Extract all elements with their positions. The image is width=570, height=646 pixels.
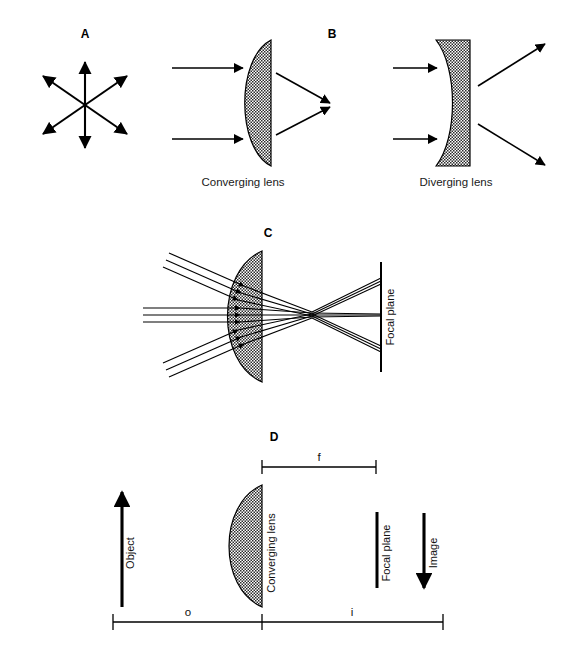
panel-a-letter: A: [81, 27, 90, 41]
panel-d-focal-plane-label: Focal plane: [380, 525, 392, 582]
panel-d-letter: D: [270, 430, 279, 444]
panel-b-letter: B: [328, 27, 337, 41]
panel-c-focal-plane-label: Focal plane: [384, 289, 396, 346]
dim-i-label: i: [351, 606, 354, 618]
object-label: Object: [124, 537, 136, 569]
converging-lens-caption: Converging lens: [201, 176, 284, 188]
panel-d-lens-label: Converging lens: [265, 513, 277, 593]
optics-figure: A B Converging lens: [0, 0, 570, 646]
panel-c-letter: C: [264, 226, 273, 240]
figure-canvas: A B Converging lens: [0, 0, 570, 646]
diverging-lens-caption: Diverging lens: [420, 176, 493, 188]
dim-o-label: o: [185, 606, 191, 618]
image-label: Image: [427, 538, 439, 569]
